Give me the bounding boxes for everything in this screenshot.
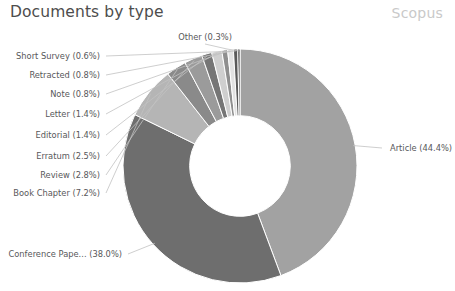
leader-line xyxy=(353,146,382,148)
donut-slices xyxy=(123,49,357,283)
leader-line xyxy=(128,243,155,254)
slice-label: Short Survey (0.6%) xyxy=(16,51,100,61)
slice-label: Conference Pape... (38.0%) xyxy=(8,249,122,259)
slice-label: Note (0.8%) xyxy=(50,89,100,99)
slice-label: Retracted (0.8%) xyxy=(29,70,100,80)
slice-label: Letter (1.4%) xyxy=(45,109,100,119)
slice-label: Article (44.4%) xyxy=(390,143,452,153)
donut-slice[interactable] xyxy=(123,115,281,283)
slice-label: Erratum (2.5%) xyxy=(36,151,100,161)
donut-chart: Article (44.4%)Conference Pape... (38.0%… xyxy=(0,0,455,291)
slice-label: Editorial (1.4%) xyxy=(36,130,100,140)
slice-label: Book Chapter (7.2%) xyxy=(13,188,100,198)
slice-label: Review (2.8%) xyxy=(40,170,100,180)
slice-label: Other (0.3%) xyxy=(178,32,232,42)
chart-screen: Documents by type Scopus Article (44.4%)… xyxy=(0,0,455,291)
